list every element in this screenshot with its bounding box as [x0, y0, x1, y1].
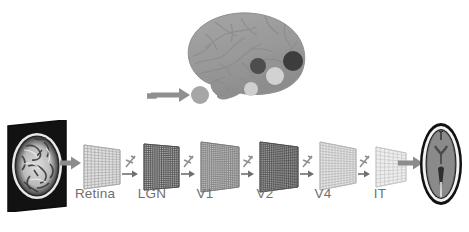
layer-labels: RetinaLGNV1V2V4IT [0, 118, 469, 232]
roi-marker-v1 [250, 58, 266, 74]
roi-marker-retina [191, 86, 209, 104]
layer-v4-label: V4 [306, 186, 340, 201]
roi-marker-lgn [244, 82, 258, 96]
roi-marker-v2 [266, 67, 284, 85]
roi-marker-v4 [283, 51, 303, 71]
layer-it-label: IT [366, 186, 394, 201]
layer-lgn-label: LGN [128, 186, 176, 201]
brain-graphic [145, 4, 320, 114]
layer-retina-label: Retina [66, 186, 124, 201]
layer-v2-label: V2 [248, 186, 282, 201]
layer-v1-label: V1 [188, 186, 222, 201]
top-input-arrow [151, 88, 190, 102]
brain-panel [145, 4, 320, 114]
figure-root: RetinaLGNV1V2V4IT [0, 0, 469, 232]
